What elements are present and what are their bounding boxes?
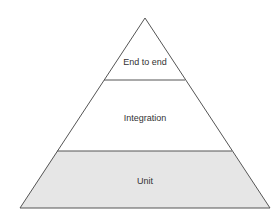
test-pyramid-diagram: End to end Integration Unit — [0, 0, 279, 221]
unit-label: Unit — [137, 176, 154, 186]
end-to-end-label: End to end — [123, 57, 167, 67]
integration-label: Integration — [124, 113, 167, 123]
